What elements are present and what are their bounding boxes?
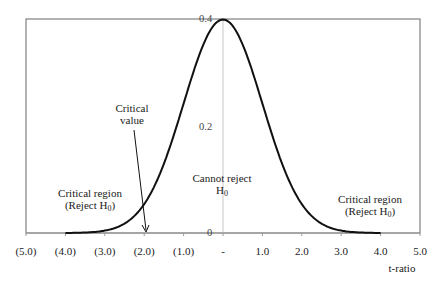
x-tick-label: (1.0) (164, 245, 204, 257)
critical-value-label: Critical value (107, 102, 157, 126)
y-tick-0.4: 0.4 (199, 13, 212, 24)
x-tick-label: (5.0) (6, 245, 46, 257)
right-region-line1: Critical region (325, 193, 415, 205)
right-region-line2: (Reject H0) (325, 205, 415, 217)
y-tick-0.2: 0.2 (199, 121, 212, 132)
x-tick-label: 3.0 (321, 245, 361, 257)
critical-value-line1: Critical (107, 102, 157, 114)
left-region-line2: (Reject H0) (45, 199, 135, 211)
x-tick-label: 2.0 (282, 245, 322, 257)
x-tick-label: (4.0) (45, 245, 85, 257)
critical-value-line2: value (107, 114, 157, 126)
left-critical-region-label: Critical region (Reject H0) (45, 187, 135, 211)
y-tick-0: 0 (207, 227, 212, 238)
t-distribution-chart (0, 0, 445, 282)
x-tick-label: 1.0 (242, 245, 282, 257)
x-tick-label: - (203, 245, 243, 257)
x-tick-label: (2.0) (124, 245, 164, 257)
x-tick-label: (3.0) (85, 245, 125, 257)
x-axis-label: t-ratio (382, 262, 422, 274)
left-region-line1: Critical region (45, 187, 135, 199)
center-line1: Cannot reject (177, 172, 267, 184)
center-line2: H0 (177, 184, 267, 196)
cannot-reject-label: Cannot reject H0 (177, 172, 267, 196)
x-tick-label: 4.0 (361, 245, 401, 257)
right-critical-region-label: Critical region (Reject H0) (325, 193, 415, 217)
x-tick-label: 5.0 (400, 245, 440, 257)
